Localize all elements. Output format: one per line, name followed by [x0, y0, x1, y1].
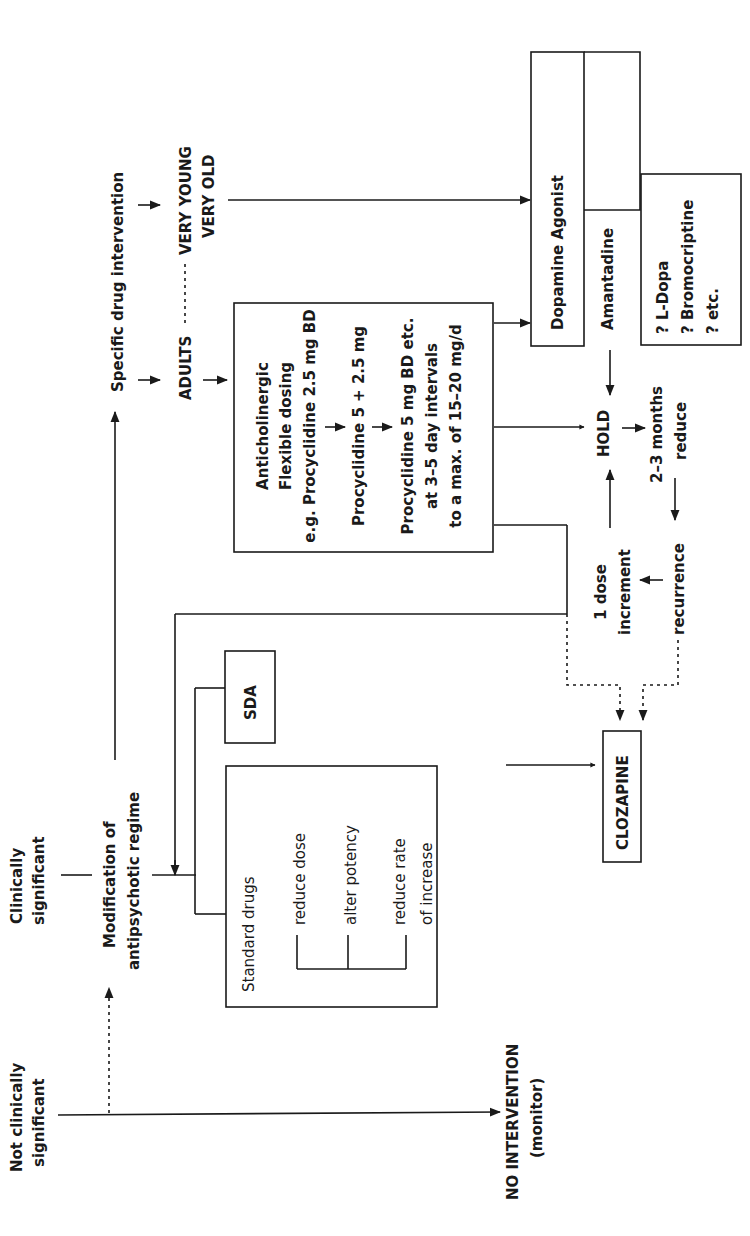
option-of-increase: of increase [418, 843, 436, 925]
svg-text:Procyclidine 5 mg BD etc.: Procyclidine 5 mg BD etc. [399, 318, 417, 535]
svg-text:Clinically: Clinically [8, 848, 26, 924]
svg-text:increment: increment [616, 549, 634, 635]
modification-label: Modification of antipsychotic regime [101, 792, 143, 970]
svg-text:antipsychotic regime: antipsychotic regime [125, 792, 143, 970]
svg-text:e.g. Procyclidine 2.5 mg BD: e.g. Procyclidine 2.5 mg BD [301, 309, 319, 542]
svg-text:Flexible dosing: Flexible dosing [277, 362, 295, 490]
svg-text:? Bromocriptine: ? Bromocriptine [679, 200, 697, 334]
dopamine-agonist-wrapper [584, 52, 640, 210]
label-clinically-significant: Clinically significant [8, 836, 48, 925]
no-intervention-label: NO INTERVENTION (monitor) [504, 1044, 546, 1200]
svg-text:significant: significant [30, 836, 48, 925]
svg-text:Modification of: Modification of [101, 821, 119, 948]
svg-text:Not clinically: Not clinically [8, 1062, 26, 1172]
svg-text:reduce: reduce [672, 402, 690, 460]
arrow-to-no-intervention [58, 1112, 500, 1115]
hold-label: HOLD [595, 410, 613, 457]
label-not-clinically-significant: Not clinically significant [8, 1062, 48, 1172]
recurrence-label: recurrence [670, 543, 688, 635]
flowchart-canvas: Not clinically significant Clinically si… [0, 0, 750, 1236]
flowchart-svg: Not clinically significant Clinically si… [0, 0, 750, 1236]
amantadine-label: Amantadine [599, 228, 617, 330]
svg-text:? etc.: ? etc. [704, 288, 722, 334]
svg-text:to a max. of 15–20 mg/d: to a max. of 15–20 mg/d [447, 324, 465, 528]
sda-label: SDA [242, 685, 260, 720]
svg-text:? L-Dopa: ? L-Dopa [654, 261, 672, 334]
option-reduce-dose: reduce dose [291, 833, 309, 925]
svg-text:Procyclidine 5 + 2.5 mg: Procyclidine 5 + 2.5 mg [350, 326, 368, 526]
svg-text:VERY YOUNG: VERY YOUNG [177, 146, 195, 255]
reduce-label: 2–3 months reduce [648, 386, 690, 483]
dopamine-agonist-label: Dopamine Agonist [549, 175, 567, 330]
dotted-anticholinergic-to-clozapine [567, 614, 620, 720]
adults-label: ADULTS [177, 336, 195, 400]
svg-text:1 dose: 1 dose [592, 564, 610, 620]
dotted-recurrence-to-clozapine [643, 640, 678, 720]
increment-label: 1 dose increment [592, 549, 634, 635]
specific-drug-label: Specific drug intervention [109, 172, 127, 392]
very-young-old-label: VERY YOUNG VERY OLD [177, 146, 218, 255]
option-reduce-rate: reduce rate [391, 838, 409, 925]
svg-text:(monitor): (monitor) [528, 1078, 546, 1158]
svg-text:2–3 months: 2–3 months [648, 386, 666, 483]
svg-text:NO INTERVENTION: NO INTERVENTION [504, 1044, 522, 1200]
anticholinergic-text: Anticholinergic Flexible dosing e.g. Pro… [254, 309, 465, 542]
svg-text:at 3–5 day intervals: at 3–5 day intervals [423, 343, 441, 509]
svg-text:significant: significant [30, 1078, 48, 1167]
svg-text:VERY OLD: VERY OLD [200, 155, 218, 238]
svg-text:Anticholinergic: Anticholinergic [254, 362, 272, 490]
clozapine-label: CLOZAPINE [614, 755, 632, 850]
option-alter-potency: alter potency [342, 825, 360, 925]
standard-drugs-title: Standard drugs [240, 876, 258, 992]
other-agonists-list: ? L-Dopa ? Bromocriptine ? etc. [654, 200, 722, 334]
